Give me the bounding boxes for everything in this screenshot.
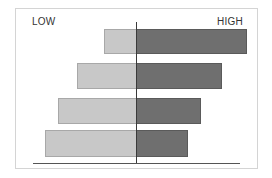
low-label: LOW xyxy=(32,16,55,27)
low-bar xyxy=(45,130,136,157)
high-bar xyxy=(136,29,247,54)
high-label: HIGH xyxy=(217,16,243,27)
center-axis-line xyxy=(136,22,137,164)
high-bar xyxy=(136,130,188,157)
baseline-axis xyxy=(33,163,240,164)
low-bar xyxy=(104,29,136,54)
low-bar xyxy=(77,63,136,89)
high-bar xyxy=(136,63,222,89)
low-bar xyxy=(58,98,136,124)
high-bar xyxy=(136,98,201,124)
